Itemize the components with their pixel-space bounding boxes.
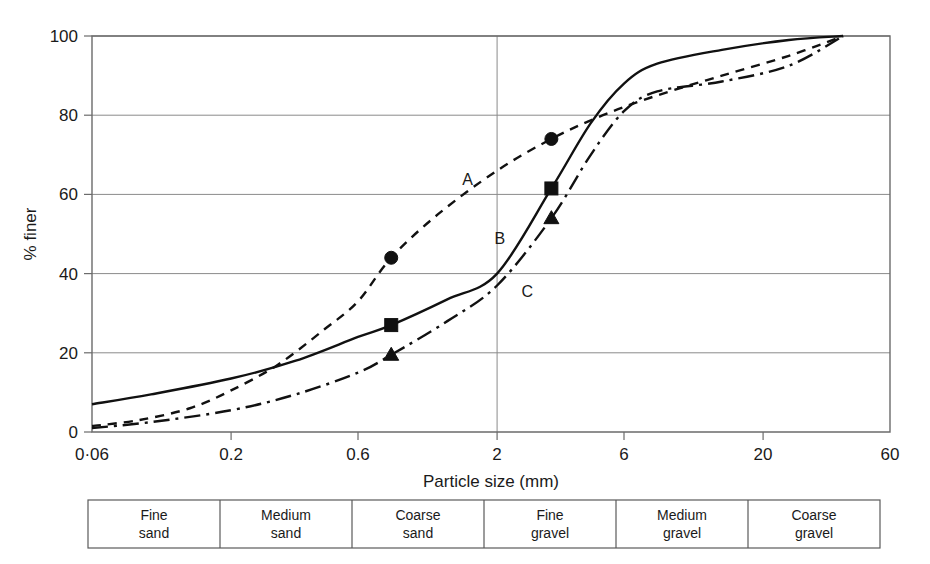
table-cell-line2-4: gravel <box>663 525 701 541</box>
soil-classification-table: FinesandMediumsandCoarsesandFinegravelMe… <box>88 500 880 548</box>
axis-labels-layer: Particle size (mm)% finerABC <box>21 171 559 492</box>
x-axis-title: Particle size (mm) <box>423 472 559 491</box>
y-tick-label-5: 100 <box>50 27 78 46</box>
table-cell-line1-3: Fine <box>536 507 563 523</box>
data-markers-layer <box>384 132 559 360</box>
x-tick-label-1: 0.2 <box>219 445 243 464</box>
marker-circle-a-0 <box>385 251 398 264</box>
table-cell-line2-2: sand <box>403 525 433 541</box>
table-cell-line1-2: Coarse <box>395 507 440 523</box>
y-tick-label-2: 40 <box>59 265 78 284</box>
grid-layer <box>92 36 890 432</box>
y-tick-label-3: 60 <box>59 185 78 204</box>
table-cell-line1-0: Fine <box>140 507 167 523</box>
x-tick-label-2: 0.6 <box>346 445 370 464</box>
table-cell-line1-5: Coarse <box>791 507 836 523</box>
particle-size-distribution-figure: 0·060.20.6262060020406080100 Particle si… <box>0 0 930 564</box>
chart-svg: 0·060.20.6262060020406080100 Particle si… <box>0 0 930 564</box>
marker-square-b-0 <box>385 319 398 332</box>
y-tick-label-1: 20 <box>59 344 78 363</box>
table-cell-line2-0: sand <box>139 525 169 541</box>
y-tick-label-4: 80 <box>59 106 78 125</box>
table-cell-line1-4: Medium <box>657 507 707 523</box>
curve-label-b: B <box>495 230 506 247</box>
x-tick-label-3: 2 <box>492 445 501 464</box>
table-cell-line2-3: gravel <box>531 525 569 541</box>
x-tick-label-6: 60 <box>881 445 900 464</box>
y-tick-label-0: 0 <box>69 423 78 442</box>
table-cell-line1-1: Medium <box>261 507 311 523</box>
data-curves-layer <box>92 36 843 428</box>
curve-label-c: C <box>522 283 534 300</box>
marker-square-b-1 <box>545 182 558 195</box>
x-tick-label-5: 20 <box>754 445 773 464</box>
y-axis-title: % finer <box>21 207 40 260</box>
plot-frame <box>92 36 890 432</box>
curve-b <box>92 36 843 404</box>
curve-label-a: A <box>462 171 473 188</box>
marker-triangle-c-0 <box>384 347 399 360</box>
x-tick-label-4: 6 <box>619 445 628 464</box>
curve-a <box>92 36 843 426</box>
plot-border <box>92 36 890 432</box>
x-tick-label-0: 0·06 <box>75 445 109 464</box>
table-cell-line2-1: sand <box>271 525 301 541</box>
table-cell-line2-5: gravel <box>795 525 833 541</box>
marker-circle-a-1 <box>545 132 558 145</box>
curve-c <box>92 36 843 428</box>
axis-ticks-layer: 0·060.20.6262060020406080100 <box>50 27 900 464</box>
